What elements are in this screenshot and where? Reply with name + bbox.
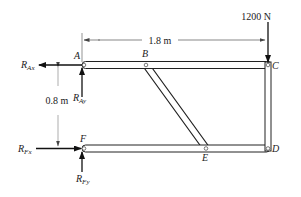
reaction-Fy-sub: Fy [81,178,90,186]
label-F: F [79,133,87,144]
dimension-horizontal-label: 1.8 m [149,35,172,46]
reaction-Ax-sub: Ax [26,64,35,72]
pin-C [266,63,270,67]
dimension-horizontal: 1.8 m [82,33,265,62]
pin-E [204,147,208,151]
label-E: E [201,152,208,163]
label-D: D [271,143,280,154]
dimension-vertical-label: 0.8 m [46,95,69,106]
label-C: C [272,60,279,71]
svg-text:RAx: RAx [20,59,35,72]
load-label: 1200 N [241,11,271,22]
reaction-Fy-base: R [75,173,82,184]
pin-B [144,63,148,67]
reaction-Ax-base: R [20,59,27,70]
member-BE [146,65,206,148]
member-CD [265,62,271,151]
pin-A [82,63,86,67]
svg-text:RFy: RFy [75,173,90,186]
member-FD [82,145,270,152]
label-A: A [73,50,81,61]
pin-D [266,147,270,151]
reaction-Ax: RAx [20,59,82,72]
reaction-Fx-sub: Fx [23,148,32,156]
reaction-Fy: RFy [75,152,90,186]
reaction-Ay-base: R [72,92,79,103]
frame-diagram: 1.8 m 0.8 m [0,0,301,197]
reaction-Ay-sub: Ay [78,97,87,105]
dimension-vertical: 0.8 m [46,67,69,146]
member-AC [82,62,270,69]
svg-text:RAy: RAy [72,92,87,105]
label-B: B [142,48,148,59]
reaction-Ay: RAy [72,68,87,105]
members [82,62,271,153]
reaction-Fx: RFx [17,143,81,156]
load-arrow: 1200 N [241,11,271,62]
reaction-Fx-base: R [17,143,24,154]
svg-text:RFx: RFx [17,143,32,156]
pin-F [82,147,86,151]
